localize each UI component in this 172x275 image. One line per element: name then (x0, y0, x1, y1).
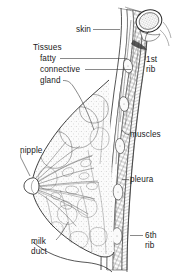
label-sixth-rib-line1: 6th (145, 231, 157, 240)
label-muscles: muscles (130, 130, 161, 139)
label-pleura: pleura (130, 175, 154, 184)
label-milk-duct-line2: duct (31, 247, 48, 256)
label-milk-duct-line1: milk (31, 237, 47, 246)
label-gland: gland (40, 76, 61, 85)
label-nipple: nipple (20, 146, 43, 155)
label-sixth-rib-line2: rib (145, 241, 155, 250)
anatomy-illustration-svg: skin Tissues fatty connective gland 1st … (0, 0, 172, 275)
leader-nipple (21, 152, 31, 176)
label-tissues: Tissues (33, 43, 62, 52)
breast-cross-section-figure: skin Tissues fatty connective gland 1st … (0, 0, 172, 275)
label-fatty: fatty (40, 54, 57, 63)
label-first-rib-line2: rib (146, 65, 156, 74)
label-skin: skin (76, 25, 91, 34)
label-connective: connective (40, 65, 80, 74)
label-first-rib-line1: 1st (146, 55, 158, 64)
